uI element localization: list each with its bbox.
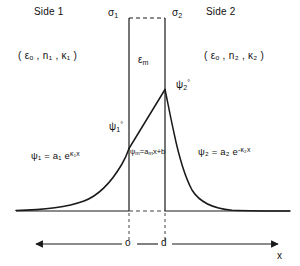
psi1-zero-label: ψ1° (109, 121, 123, 133)
psi1-equation-body: ψ₁ = a₁ e (31, 150, 70, 161)
x-axis-tick-origin: o (125, 238, 131, 248)
psi2-zero-superscript: ° (187, 78, 190, 87)
epsilon-subscript: m (142, 58, 148, 67)
side1-material-label: ( εₒ , n₁ , κ₁ ) (18, 51, 77, 61)
psi2-equation-body: ψ₂ = a₂ e (198, 146, 238, 157)
wavefunction-line-membrane (129, 90, 165, 149)
side2-material-label: ( εₒ , n₂ , κ₂ ) (204, 51, 264, 61)
x-axis-tick-thickness: d (161, 238, 167, 248)
side2-label: Side 2 (206, 7, 236, 17)
side2-wavefunction-equation: ψ₂ = a₂ e-κ₂x (198, 147, 251, 157)
side1-wavefunction-equation: ψ₁ = a₁ eκ₁x (31, 151, 80, 161)
psi1-exponent: κ₁x (70, 150, 80, 157)
physics-diagram: Side 1 Side 2 σ1 σ2 ( εₒ , n₁ , κ₁ ) ( ε… (0, 0, 300, 266)
psi2-exponent: -κ₂x (238, 146, 251, 153)
sigma2-subscript: 2 (178, 11, 182, 20)
psi2-zero-label: ψ2° (176, 79, 190, 91)
x-axis-label: x (277, 251, 282, 261)
membrane-permittivity-label: εm (138, 55, 148, 66)
side1-label: Side 1 (34, 7, 64, 17)
diagram-canvas (0, 0, 300, 266)
sigma1-subscript: 1 (114, 11, 118, 20)
membrane-wavefunction-equation: ψm=amx+b (130, 148, 165, 157)
psi-m-tail: x+b (153, 147, 165, 156)
psi1-zero-superscript: ° (120, 120, 123, 129)
sigma2-label: σ2 (172, 8, 182, 19)
sigma1-label: σ1 (108, 8, 118, 19)
